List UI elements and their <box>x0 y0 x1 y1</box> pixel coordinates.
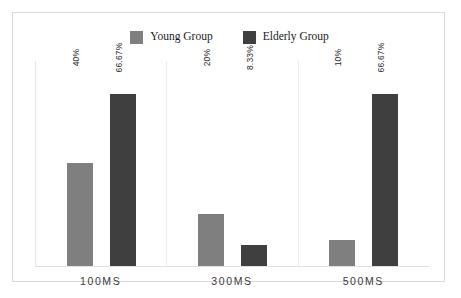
x-tick-100ms: 100MS <box>35 271 166 291</box>
legend-swatch-elderly-icon <box>243 31 256 44</box>
chart-frame: Young Group Elderly Group 40% 66.67% <box>12 12 445 282</box>
bar-wrap-elderly-300ms: 8.33% <box>241 61 267 266</box>
x-tick-500ms: 500MS <box>298 271 429 291</box>
bar-value-young-500ms: 10% <box>334 48 343 66</box>
bar-value-elderly-300ms: 8.33% <box>245 44 254 69</box>
bar-wrap-elderly-500ms: 66.67% <box>372 61 398 266</box>
bar-value-elderly-100ms: 66.67% <box>114 42 123 72</box>
bar-group-500ms: 10% 66.67% <box>298 61 429 266</box>
bar-group-300ms: 20% 8.33% <box>166 61 297 266</box>
chart-figure: Young Group Elderly Group 40% 66.67% <box>0 0 461 298</box>
bar-groups: 40% 66.67% 20% 8.33% <box>36 61 429 266</box>
bar-young-500ms[interactable] <box>329 240 355 266</box>
x-axis-tick-labels: 100MS 300MS 500MS <box>35 271 429 291</box>
bar-wrap-young-500ms: 10% <box>329 61 355 266</box>
bar-wrap-elderly-100ms: 66.67% <box>110 61 136 266</box>
bar-elderly-300ms[interactable] <box>241 245 267 266</box>
bar-group-100ms: 40% 66.67% <box>36 61 166 266</box>
bar-young-100ms[interactable] <box>67 163 93 266</box>
legend-swatch-young-icon <box>130 31 143 44</box>
bar-wrap-young-100ms: 40% <box>67 61 93 266</box>
bar-wrap-young-300ms: 20% <box>198 61 224 266</box>
bar-value-young-300ms: 20% <box>202 48 211 66</box>
bar-elderly-500ms[interactable] <box>372 94 398 266</box>
bar-value-young-100ms: 40% <box>71 48 80 66</box>
x-tick-300ms: 300MS <box>166 271 297 291</box>
bar-elderly-100ms[interactable] <box>110 94 136 266</box>
legend-entry-elderly[interactable]: Elderly Group <box>243 31 329 44</box>
legend-label-young: Young Group <box>150 31 212 43</box>
bar-young-300ms[interactable] <box>198 214 224 266</box>
legend-label-elderly: Elderly Group <box>263 31 329 43</box>
plot-area: 40% 66.67% 20% 8.33% <box>35 61 429 267</box>
legend-entry-young[interactable]: Young Group <box>130 31 212 44</box>
bar-value-elderly-500ms: 66.67% <box>377 42 386 72</box>
